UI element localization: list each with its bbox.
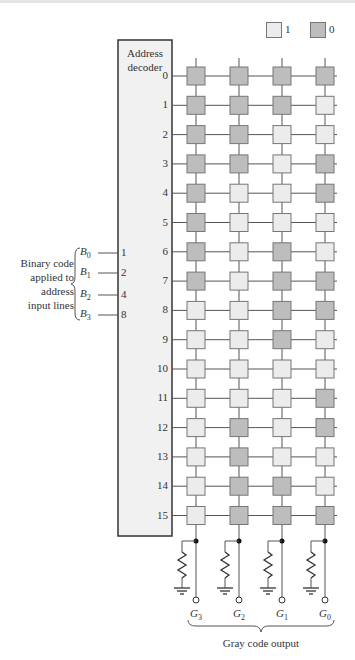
output-caption: Gray code output (196, 637, 326, 649)
row-address-label: 7 (148, 274, 168, 286)
memory-cell-zero (230, 448, 248, 466)
memory-cell-zero (316, 507, 334, 525)
input-subscript: 0 (87, 251, 91, 260)
memory-cell-one (230, 389, 248, 407)
row-address-label: 8 (148, 303, 168, 315)
memory-cell-one (187, 419, 205, 437)
memory-cell-one (316, 96, 334, 114)
memory-cell-one (230, 331, 248, 349)
memory-cell-zero (187, 67, 205, 85)
input-weight: 1 (121, 246, 127, 258)
resistor-icon (221, 552, 229, 578)
rom-diagram (0, 0, 355, 660)
output-terminal (279, 597, 285, 603)
memory-cell-one (316, 477, 334, 495)
row-address-label: 11 (148, 391, 168, 403)
output-name: G (276, 607, 284, 619)
memory-cell-zero (273, 477, 291, 495)
memory-cell-zero (273, 67, 291, 85)
memory-cell-zero (230, 155, 248, 173)
memory-cell-one (273, 214, 291, 232)
memory-cell-zero (230, 67, 248, 85)
memory-cell-one (187, 389, 205, 407)
row-address-label: 1 (148, 98, 168, 110)
memory-cell-one (273, 389, 291, 407)
input-subscript: 1 (87, 271, 91, 280)
input-weight: 2 (121, 266, 127, 278)
memory-cell-zero (187, 96, 205, 114)
input-name: B (80, 245, 87, 257)
memory-cell-zero (273, 96, 291, 114)
memory-cell-one (273, 448, 291, 466)
memory-cell-one (187, 507, 205, 525)
output-subscript: 0 (327, 613, 331, 622)
memory-cell-one (230, 301, 248, 319)
memory-cell-one (230, 272, 248, 290)
output-label-g1: G1 (270, 607, 294, 622)
output-label-g2: G2 (227, 607, 251, 622)
decoder-title-line1: Address (118, 46, 172, 60)
memory-cell-one (187, 448, 205, 466)
memory-cell-one (316, 360, 334, 378)
row-address-label: 10 (148, 362, 168, 374)
memory-cell-zero (273, 243, 291, 261)
memory-cell-one (316, 243, 334, 261)
memory-cell-zero (273, 272, 291, 290)
memory-cell-zero (187, 214, 205, 232)
input-description-line: input lines (10, 298, 74, 312)
input-weight: 8 (121, 308, 127, 320)
output-name: G (233, 607, 241, 619)
output-terminal (193, 597, 199, 603)
output-label-g3: G3 (184, 607, 208, 622)
input-name: B (80, 287, 87, 299)
memory-cell-zero (187, 243, 205, 261)
memory-cell-one (187, 301, 205, 319)
memory-cell-zero (187, 126, 205, 144)
input-weight: 4 (121, 288, 127, 300)
memory-cell-zero (230, 126, 248, 144)
input-label-b3: B3 (80, 307, 91, 322)
memory-cell-zero (316, 155, 334, 173)
memory-cell-zero (230, 96, 248, 114)
input-label-b0: B0 (80, 245, 91, 260)
memory-cell-zero (273, 507, 291, 525)
memory-cell-zero (316, 301, 334, 319)
row-address-label: 0 (148, 69, 168, 81)
memory-cell-one (273, 184, 291, 202)
memory-cell-one (187, 477, 205, 495)
memory-cell-zero (316, 184, 334, 202)
output-terminal (322, 597, 328, 603)
resistor-icon (307, 552, 315, 578)
row-address-label: 12 (148, 421, 168, 433)
resistor-icon (178, 552, 186, 578)
output-terminal (236, 597, 242, 603)
memory-cell-one (316, 126, 334, 144)
input-description-line: address (10, 284, 74, 298)
memory-cell-one (273, 360, 291, 378)
memory-cell-zero (273, 331, 291, 349)
input-description-line: Binary code (10, 256, 74, 270)
memory-cell-one (230, 214, 248, 232)
resistor-icon (264, 552, 272, 578)
output-subscript: 1 (284, 613, 288, 622)
memory-cell-one (273, 126, 291, 144)
memory-cell-one (230, 360, 248, 378)
memory-cell-zero (316, 272, 334, 290)
row-address-label: 15 (148, 509, 168, 521)
input-subscript: 2 (87, 293, 91, 302)
memory-cell-one (273, 419, 291, 437)
memory-cell-one (187, 331, 205, 349)
row-address-label: 3 (148, 157, 168, 169)
output-subscript: 3 (198, 613, 202, 622)
input-label-b1: B1 (80, 265, 91, 280)
memory-cell-zero (230, 419, 248, 437)
row-address-label: 9 (148, 333, 168, 345)
memory-cell-one (230, 184, 248, 202)
row-address-label: 6 (148, 245, 168, 257)
memory-cell-zero (316, 389, 334, 407)
input-description: Binary code applied to address input lin… (10, 256, 74, 312)
row-address-label: 4 (148, 186, 168, 198)
input-label-b2: B2 (80, 287, 91, 302)
memory-cell-zero (230, 507, 248, 525)
output-name: G (190, 607, 198, 619)
